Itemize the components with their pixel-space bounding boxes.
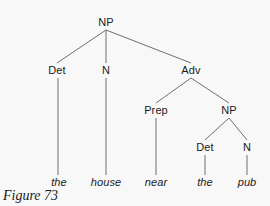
tree-node-det-1: Det [48,64,65,76]
tree-node-np-2: NP [221,104,236,116]
tree-edge [106,30,191,63]
tree-edge [191,78,229,103]
tree-node-prep-1: Prep [144,104,168,116]
tree-leaf-leaf-pub: pub [238,176,257,188]
tree-leaf-leaf-house: house [91,176,121,188]
tree-leaf-leaf-the-1: the [51,176,67,188]
tree-edge [57,30,106,63]
tree-node-n-2: N [243,141,251,153]
tree-edge [156,78,191,103]
tree-edge [229,118,247,140]
tree-node-np-root: NP [98,16,113,28]
tree-node-n-1: N [102,64,110,76]
tree-leaf-leaf-near: near [145,176,167,188]
tree-leaf-leaf-the-2: the [197,176,213,188]
figure-caption: Figure 73 [3,188,58,204]
figure-container: NPDetNAdvPrepNPDetNthehousenearthepub Fi… [0,0,270,206]
tree-edges-svg [0,0,270,206]
tree-edge [205,118,229,140]
tree-node-adv-1: Adv [181,64,200,76]
tree-node-det-2: Det [196,141,213,153]
